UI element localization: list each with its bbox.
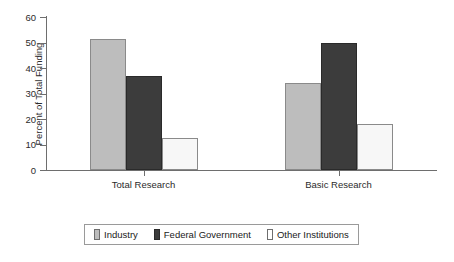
y-axis-tick: 0 bbox=[40, 170, 46, 171]
legend-item: Other Institutions bbox=[267, 229, 349, 240]
bar bbox=[126, 76, 162, 170]
bar bbox=[285, 83, 321, 170]
chart-legend: IndustryFederal GovernmentOther Institut… bbox=[84, 224, 359, 245]
bar bbox=[321, 43, 357, 171]
y-axis-tick-label: 50 bbox=[25, 38, 40, 48]
bar-group bbox=[90, 17, 198, 170]
legend-item: Industry bbox=[94, 229, 138, 240]
legend-label: Federal Government bbox=[164, 230, 251, 240]
y-axis-tick-label: 10 bbox=[25, 140, 40, 150]
y-axis-tick-mark bbox=[40, 170, 46, 171]
bar bbox=[357, 124, 393, 170]
x-axis-tick-mark bbox=[144, 171, 145, 176]
legend-swatch-icon bbox=[154, 229, 160, 240]
bar bbox=[162, 138, 198, 170]
legend-swatch-icon bbox=[267, 229, 273, 240]
y-axis-tick-label: 40 bbox=[25, 64, 40, 74]
legend-swatch-icon bbox=[94, 229, 100, 240]
bar-chart-figure: Percent of Total Funding 0102030405060 T… bbox=[0, 0, 454, 262]
plot-area bbox=[46, 17, 436, 170]
legend-label: Other Institutions bbox=[277, 230, 349, 240]
bar bbox=[90, 39, 126, 170]
x-axis-category-label: Basic Research bbox=[305, 180, 372, 190]
y-axis-tick-label: 20 bbox=[25, 115, 40, 125]
legend-label: Industry bbox=[104, 230, 138, 240]
y-axis-tick-label: 60 bbox=[25, 13, 40, 23]
bar-group bbox=[285, 17, 393, 170]
y-axis-title-container: Percent of Total Funding bbox=[14, 17, 26, 170]
y-axis-tick-label: 0 bbox=[31, 166, 40, 176]
y-axis-tick-label: 30 bbox=[25, 89, 40, 99]
legend-item: Federal Government bbox=[154, 229, 251, 240]
x-axis-tick-mark bbox=[339, 171, 340, 176]
x-axis-category-label: Total Research bbox=[112, 180, 175, 190]
x-axis-line bbox=[46, 170, 437, 171]
